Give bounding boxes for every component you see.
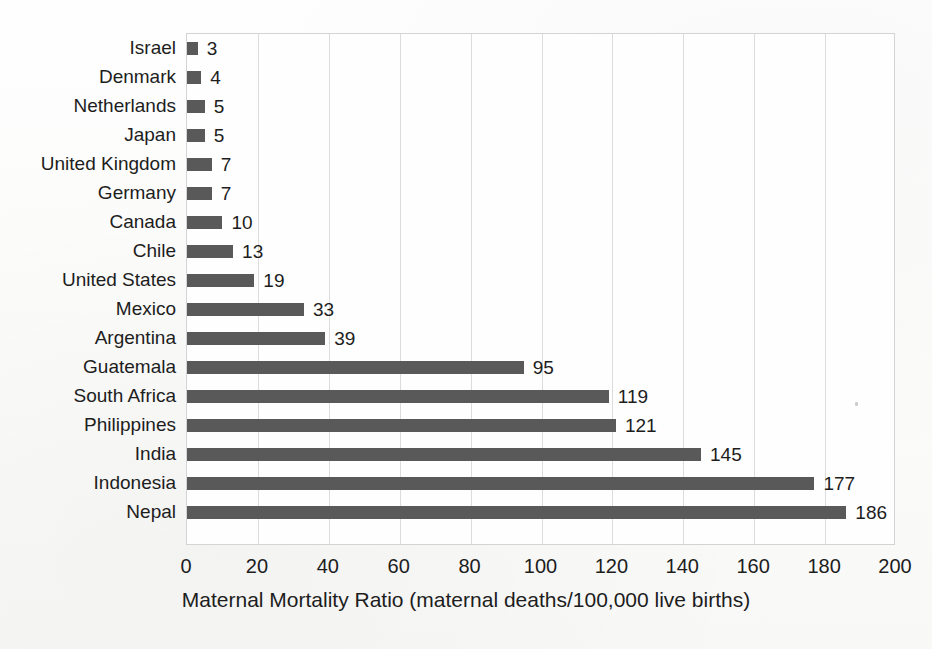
category-label: United States (0, 265, 176, 294)
category-label: Chile (0, 236, 176, 265)
x-tick-label: 200 (878, 552, 911, 580)
bar[interactable] (187, 506, 846, 519)
bar-value-label: 119 (618, 384, 648, 409)
bar-row: 19 (187, 266, 894, 295)
bar-row: 121 (187, 411, 894, 440)
bar-value-label: 19 (263, 268, 284, 293)
x-tick-label: 80 (458, 552, 480, 580)
bar[interactable] (187, 303, 304, 316)
bar-value-label: 4 (210, 65, 221, 90)
x-tick-label: 160 (737, 552, 770, 580)
chart-screenshot: IsraelDenmarkNetherlandsJapanUnited King… (0, 0, 932, 649)
bar-row: 10 (187, 208, 894, 237)
bar-value-label: 177 (823, 471, 855, 496)
bar-value-label: 10 (231, 210, 252, 235)
bar[interactable] (187, 42, 198, 55)
bar-value-label: 13 (242, 239, 263, 264)
bar-row: 39 (187, 324, 894, 353)
bar-row: 177 (187, 469, 894, 498)
category-label: Israel (0, 33, 176, 62)
bar[interactable] (187, 390, 609, 403)
bar-value-label: 145 (710, 442, 742, 467)
bar-row: 95 (187, 353, 894, 382)
category-label: Germany (0, 178, 176, 207)
category-label: Denmark (0, 62, 176, 91)
category-label: Canada (0, 207, 176, 236)
bar[interactable] (187, 71, 201, 84)
x-tick-label: 180 (807, 552, 840, 580)
bar[interactable] (187, 477, 814, 490)
bar-value-label: 95 (533, 355, 554, 380)
bar-row: 5 (187, 121, 894, 150)
category-label: Philippines (0, 410, 176, 439)
bar[interactable] (187, 158, 212, 171)
plot-area: 345577101319333995119121145177186 (186, 33, 895, 545)
bar[interactable] (187, 448, 701, 461)
bar-row: 145 (187, 440, 894, 469)
x-tick-label: 100 (524, 552, 557, 580)
bar-row: 33 (187, 295, 894, 324)
bar-value-label: 5 (214, 94, 225, 119)
bar[interactable] (187, 361, 524, 374)
bar-value-label: 5 (214, 123, 225, 148)
bar-value-label: 39 (334, 326, 355, 351)
category-label: Guatemala (0, 352, 176, 381)
bar-value-label: 121 (625, 413, 657, 438)
category-label: South Africa (0, 381, 176, 410)
bar-row: 4 (187, 63, 894, 92)
category-label: Japan (0, 120, 176, 149)
bar-row: 119 (187, 382, 894, 411)
category-label: Mexico (0, 294, 176, 323)
x-tick-label: 60 (388, 552, 410, 580)
category-label: Nepal (0, 497, 176, 526)
bar-row: 186 (187, 498, 894, 527)
x-tick-label: 40 (317, 552, 339, 580)
x-tick-label: 120 (595, 552, 628, 580)
bar[interactable] (187, 187, 212, 200)
x-tick-label: 20 (246, 552, 268, 580)
x-axis-title: Maternal Mortality Ratio (maternal death… (0, 588, 932, 612)
category-axis: IsraelDenmarkNetherlandsJapanUnited King… (0, 33, 176, 545)
bar-value-label: 7 (221, 152, 232, 177)
bar-row: 5 (187, 92, 894, 121)
category-label: India (0, 439, 176, 468)
bar-value-label: 3 (207, 36, 218, 61)
bar-row: 7 (187, 179, 894, 208)
bar-value-label: 186 (855, 500, 887, 525)
scan-artifact-speck (855, 402, 858, 406)
bar[interactable] (187, 100, 205, 113)
category-label: Indonesia (0, 468, 176, 497)
bar[interactable] (187, 419, 616, 432)
bar[interactable] (187, 274, 254, 287)
bar[interactable] (187, 332, 325, 345)
x-tick-label: 0 (180, 552, 191, 580)
category-label: Argentina (0, 323, 176, 352)
bar-row: 3 (187, 34, 894, 63)
bar[interactable] (187, 245, 233, 258)
x-axis-tick-labels: 020406080100120140160180200 (0, 552, 932, 582)
bar-value-label: 33 (313, 297, 334, 322)
bar[interactable] (187, 216, 222, 229)
bar-row: 13 (187, 237, 894, 266)
category-label: Netherlands (0, 91, 176, 120)
bar[interactable] (187, 129, 205, 142)
bar-row: 7 (187, 150, 894, 179)
bar-value-label: 7 (221, 181, 232, 206)
x-tick-label: 140 (666, 552, 699, 580)
category-label: United Kingdom (0, 149, 176, 178)
